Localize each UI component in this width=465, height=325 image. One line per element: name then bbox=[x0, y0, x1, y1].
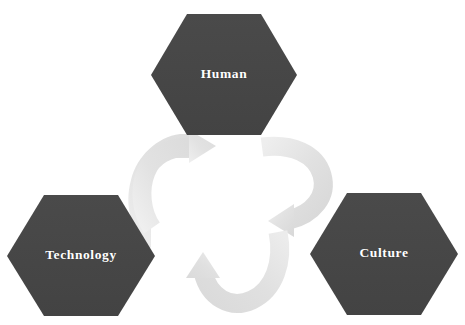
arrow-culture-to-technology bbox=[186, 232, 280, 303]
node-technology[interactable] bbox=[7, 195, 155, 317]
cycle-arrow-group bbox=[128, 130, 323, 303]
cycle-diagram: Human Technology Culture bbox=[0, 0, 465, 325]
node-human[interactable] bbox=[151, 14, 297, 136]
node-culture[interactable] bbox=[310, 193, 458, 315]
